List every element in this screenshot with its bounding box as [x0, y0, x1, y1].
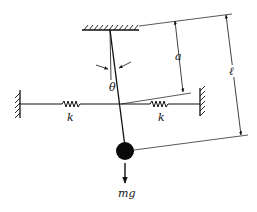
right-spring-label: k [158, 111, 165, 124]
left-spring [20, 101, 121, 107]
pendulum-diagram: θ k k [0, 0, 257, 212]
left-spring-label: k [67, 111, 74, 124]
pivot-extension-line [139, 14, 232, 26]
left-wall [15, 90, 20, 118]
ceiling-support [82, 25, 139, 30]
angle-label: θ [109, 81, 116, 94]
mass-extension-line [134, 135, 248, 150]
dimension-a-label: a [175, 50, 182, 63]
right-wall [200, 86, 205, 116]
angle-arrows [96, 62, 131, 69]
pendulum-mass [116, 142, 134, 160]
dimension-length-label: ℓ [229, 65, 234, 78]
weight-label: mg [118, 187, 135, 200]
